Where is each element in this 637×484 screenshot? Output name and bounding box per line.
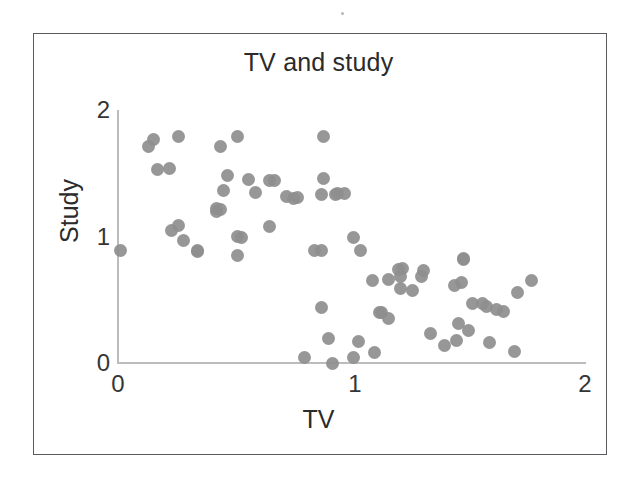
scatter-point [191,245,204,258]
scatter-point [483,336,496,349]
scatter-point [354,244,367,257]
scatter-point [315,188,328,201]
scatter-point [172,219,185,232]
scatter-point [177,234,190,247]
scan-artifact-speck [341,12,344,15]
scatter-point [317,130,330,143]
scatter-point [221,169,234,182]
scatter-point [242,173,255,186]
scatter-point [406,284,419,297]
scatter-point [214,203,227,216]
scatter-point [450,334,463,347]
scatter-point [511,286,524,299]
scatter-point [373,306,386,319]
scatter-plot-area [118,110,585,363]
scatter-point [231,249,244,262]
scatter-point [235,231,248,244]
scatter-point [163,162,176,175]
scatter-point [326,357,339,370]
scatter-point [263,220,276,233]
scatter-point [352,335,365,348]
scatter-point [338,187,351,200]
scatter-point [508,345,521,358]
scatter-point [497,305,510,318]
scatter-point [347,351,360,364]
scatter-point [347,231,360,244]
scatter-point [231,130,244,143]
scatter-point [298,351,311,364]
scatter-point [142,140,155,153]
scatter-point [249,186,262,199]
scatter-point [455,276,468,289]
scatter-point [217,184,230,197]
scatter-point [366,274,379,287]
scatter-point [172,130,185,143]
scatter-point [317,172,330,185]
scatter-point [462,324,475,337]
x-axis-tick-2: 2 [570,371,600,397]
x-axis-tick-0: 0 [103,371,133,397]
scatter-point [322,332,335,345]
y-axis-tick-2: 2 [84,97,110,123]
scatter-point [368,346,381,359]
scatter-point [392,263,405,276]
scatter-point [214,140,227,153]
x-axis-label: TV [0,404,637,434]
y-axis-label: Study [54,166,84,256]
scatter-point [268,174,281,187]
figure-root: TV and study 2 1 0 0 1 2 TV Study [0,0,637,484]
scatter-point [457,253,470,266]
scatter-point [315,244,328,257]
scatter-point [394,282,407,295]
scatter-point [291,191,304,204]
x-axis-tick-1: 1 [340,371,370,397]
scatter-point [415,270,428,283]
scatter-point [424,327,437,340]
chart-title: TV and study [0,47,637,77]
scatter-point [315,301,328,314]
scatter-point [476,297,489,310]
scatter-point [114,244,127,257]
scatter-point [525,274,538,287]
y-axis-tick-1: 1 [84,224,110,250]
